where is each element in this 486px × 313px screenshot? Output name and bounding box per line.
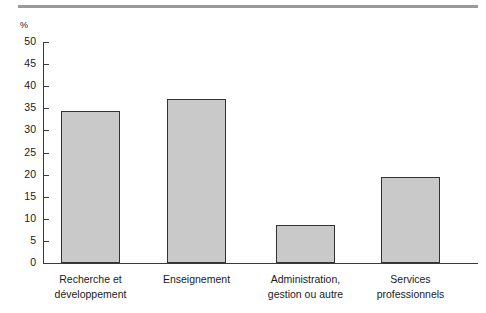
bar bbox=[276, 225, 335, 263]
y-axis-tick-label: 0 bbox=[0, 257, 36, 268]
y-axis-tick-mark bbox=[43, 241, 49, 242]
category-label-line1: Enseignement bbox=[163, 273, 230, 285]
y-axis-tick-mark bbox=[43, 108, 49, 109]
y-axis-tick-mark bbox=[43, 219, 49, 220]
y-axis-tick-mark bbox=[43, 64, 49, 65]
bar bbox=[167, 99, 226, 263]
y-axis-tick-mark bbox=[43, 153, 49, 154]
y-axis-tick-label: 40 bbox=[0, 80, 36, 91]
y-axis-tick-label: 35 bbox=[0, 102, 36, 113]
y-axis-tick-label: 15 bbox=[0, 191, 36, 202]
x-axis-category-label: Servicesprofessionnels bbox=[341, 272, 481, 302]
category-label-line1: Services bbox=[390, 273, 430, 285]
y-axis-tick-label: 5 bbox=[0, 235, 36, 246]
y-axis-tick-mark bbox=[43, 175, 49, 176]
category-label-line2: développement bbox=[21, 287, 161, 302]
category-label-line1: Recherche et bbox=[59, 273, 121, 285]
y-axis-tick-label: 20 bbox=[0, 169, 36, 180]
y-axis-tick-label: 45 bbox=[0, 58, 36, 69]
top-rule-divider bbox=[18, 5, 478, 8]
chart-figure: % 50454035302520151050 Recherche etdével… bbox=[0, 0, 486, 313]
y-axis-tick-label: 50 bbox=[0, 36, 36, 47]
category-label-line2: professionnels bbox=[341, 287, 481, 302]
y-axis-tick-mark bbox=[43, 197, 49, 198]
y-axis-tick-mark bbox=[43, 42, 49, 43]
bar bbox=[61, 111, 120, 263]
y-axis-tick-mark bbox=[43, 130, 49, 131]
y-axis-tick-label: 30 bbox=[0, 124, 36, 135]
x-axis-line bbox=[43, 263, 478, 264]
y-axis-tick-label: 10 bbox=[0, 213, 36, 224]
category-label-line1: Administration, bbox=[271, 273, 340, 285]
y-axis-unit-label: % bbox=[20, 20, 28, 30]
bar bbox=[381, 177, 440, 263]
y-axis-tick-label: 25 bbox=[0, 147, 36, 158]
y-axis-tick-mark bbox=[43, 86, 49, 87]
y-axis-tick-mark bbox=[43, 263, 49, 264]
